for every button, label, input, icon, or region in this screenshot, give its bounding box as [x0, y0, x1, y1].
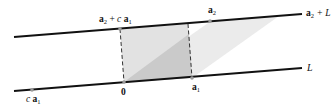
label-line-L: L [306, 62, 313, 73]
label-c-a1: c a1 [26, 94, 41, 105]
parallelogram-diagram: a2 + c a1 a2 a2 + L L 0 a1 c a1 [0, 0, 334, 112]
point-origin [122, 80, 126, 84]
point-a2 [208, 19, 212, 23]
point-a1 [190, 76, 194, 80]
label-origin: 0 [121, 87, 126, 97]
label-a2: a2 [208, 5, 216, 16]
point-c-a1 [30, 88, 34, 92]
label-a1: a1 [192, 82, 200, 93]
label-line-a2-plus-L: a2 + L [306, 8, 330, 19]
point-a2-plus-ca1 [118, 27, 122, 31]
label-a2-plus-ca1: a2 + c a1 [99, 14, 132, 25]
